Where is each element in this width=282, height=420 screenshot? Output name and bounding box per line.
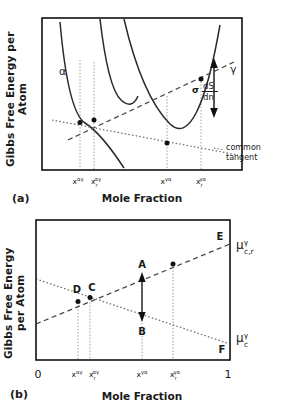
sigma-numerator: dS	[203, 81, 214, 91]
panel-b-xtick-labels: xαγ xrαγ xγα xrγα	[72, 369, 181, 381]
panel-a-y-axis-label: Gibbs Free Energy per Atom	[4, 14, 20, 184]
xtick-b-3: xγα	[137, 369, 149, 379]
common-tangent-label-line2: tangent	[226, 153, 257, 162]
xtick-b-2: xrαγ	[89, 369, 99, 381]
panel-b-x-axis-label: Mole Fraction	[62, 390, 222, 402]
panel-b-y-axis-label: Gibbs Free Energyper Atom	[2, 228, 28, 378]
point-label-B: B	[138, 326, 146, 337]
panel-a: Gibbs Free Energy per Atom	[0, 0, 282, 208]
panel-b: Gibbs Free Energyper Atom	[0, 208, 282, 420]
xtick-b-1: xαγ	[72, 369, 83, 379]
point-label-C: C	[88, 282, 95, 293]
xtick-a-4: xrγα	[196, 176, 207, 188]
panel-a-tag: (a)	[12, 192, 29, 205]
figure-root: Gibbs Free Energy per Atom	[0, 0, 282, 420]
curve-label-gamma: γ	[230, 63, 237, 76]
point-label-A: A	[138, 259, 146, 270]
curve-label-alpha: α	[59, 65, 66, 78]
point-label-E: E	[217, 231, 224, 242]
xtick-b-4: xrγα	[170, 369, 181, 381]
panel-b-frame	[36, 220, 230, 360]
panel-a-x-axis-label: Mole Fraction	[62, 192, 222, 204]
panel-b-plot: D C A B E F μγc,r μγc 0 1 xαγ	[30, 212, 282, 397]
xtick-a-2: xrαγ	[91, 176, 101, 188]
panel-b-y-axis-label-line2: per Atom	[14, 275, 26, 331]
point-label-D: D	[73, 284, 81, 295]
mu-label-upper: μγc,r	[236, 238, 255, 256]
point-label-F: F	[219, 344, 226, 355]
panel-b-tag: (b)	[10, 388, 28, 401]
sigma-denominator: dn	[203, 92, 214, 102]
xtick-a-3: xγα	[161, 176, 173, 186]
panel-a-xtick-labels: xαγ xrαγ xγα xrγα	[73, 176, 207, 188]
panel-b-y-axis-label-line1: Gibbs Free Energy	[2, 247, 14, 358]
x-axis-end-label: 1	[225, 368, 232, 381]
x-axis-start-label: 0	[35, 368, 42, 381]
common-tangent-label-line1: common	[226, 143, 261, 152]
sigma-symbol: σ	[192, 85, 199, 95]
mu-label-lower: μγc	[236, 331, 249, 349]
panel-a-plot: α γ σ dS dn common tangent xαγ xrαγ xγα	[38, 0, 278, 208]
xtick-a-1: xαγ	[73, 176, 84, 186]
